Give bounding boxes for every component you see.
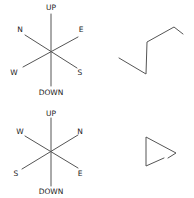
label-lower-left: W	[10, 68, 18, 77]
label-upper-right: E	[79, 25, 84, 34]
compass-bottom: UP DOWN W N S E	[14, 109, 83, 196]
label-down: DOWN	[39, 187, 64, 196]
label-lower-left: S	[14, 169, 19, 178]
label-upper-right: N	[77, 127, 83, 136]
label-up: UP	[46, 109, 56, 118]
label-lower-right: E	[78, 169, 83, 178]
triangle-path	[146, 137, 176, 166]
label-upper-left: N	[17, 25, 23, 34]
label-upper-left: W	[16, 127, 24, 136]
label-up: UP	[46, 3, 56, 12]
diagram-canvas: UP DOWN N E W S UP DOWN W N S E	[0, 0, 194, 198]
diagonal-axis-sw-ne	[22, 135, 78, 169]
label-down: DOWN	[39, 88, 64, 97]
label-lower-right: S	[78, 68, 83, 77]
triangle-outline	[146, 137, 176, 166]
compass-top: UP DOWN N E W S	[10, 3, 83, 97]
zigzag-path	[119, 27, 183, 74]
